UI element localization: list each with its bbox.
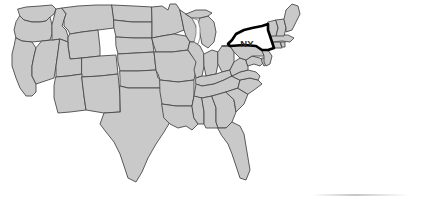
state-north-dakota (112, 5, 152, 22)
state-florida (218, 122, 250, 180)
us-map-svg: NY (0, 0, 439, 201)
state-oklahoma (120, 70, 162, 88)
state-label-ny: NY (240, 38, 254, 49)
state-kansas (118, 52, 156, 71)
state-south-dakota (114, 20, 152, 38)
state-arizona (54, 74, 86, 113)
state-arkansas (160, 80, 194, 106)
state-indiana (204, 50, 218, 76)
state-iowa (152, 34, 190, 52)
state-colorado (82, 55, 118, 77)
state-michigan-lower (198, 16, 216, 48)
state-wyoming (68, 30, 100, 59)
state-montana (62, 5, 114, 34)
us-map-figure: NY (0, 0, 439, 201)
state-minnesota (152, 4, 184, 38)
state-new-mexico (82, 74, 120, 113)
state-rhode-island (281, 42, 285, 47)
scan-smudge (312, 194, 408, 196)
state-maine (284, 4, 300, 32)
state-nebraska (116, 37, 154, 54)
